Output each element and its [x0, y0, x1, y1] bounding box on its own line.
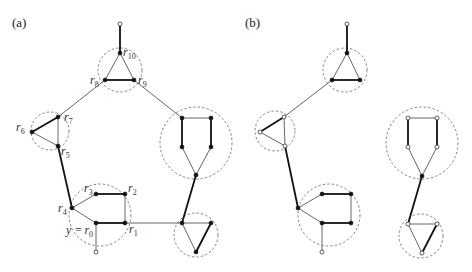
vertex-tail-bottom [94, 250, 98, 254]
vertex-r7 [56, 115, 60, 119]
vertex-b-bl-tl [320, 192, 324, 196]
label-r5: r5 [61, 144, 70, 160]
label-r8: r8 [90, 73, 99, 89]
vertex-sq-tr [209, 116, 213, 120]
panel-a-label: (a) [12, 15, 26, 30]
vertex-r0 [94, 221, 98, 225]
vertex-b-top-l [330, 78, 334, 82]
vertex-sq-bl [180, 145, 184, 149]
label-r10: r10 [123, 45, 136, 61]
vertex-sq-br [209, 145, 213, 149]
vertex-sq-bottom [194, 173, 198, 177]
vertex-tri-r [209, 221, 213, 225]
vertex-b-tail-top [345, 22, 349, 26]
vertex-tri-bottom [194, 250, 198, 254]
vertex-r4 [70, 206, 74, 210]
vertex-b-tail-bottom [320, 250, 324, 254]
label-r1: r1 [129, 222, 138, 238]
vertex-r10 [118, 51, 122, 55]
panel-b: (b) [245, 15, 458, 258]
vertex-r3 [94, 192, 98, 196]
vertex-b-left-bottom [283, 144, 287, 148]
label-r9: r9 [138, 73, 147, 89]
panel-a: (a) [12, 15, 232, 257]
label-y-eq-r0: y =r0 [65, 223, 93, 239]
vertex-b-hub [296, 206, 300, 210]
vertex-b-top [345, 51, 349, 55]
vertex-b-top-r [358, 78, 362, 82]
vertex-b-bl-br [349, 221, 353, 225]
vertex-r6 [30, 130, 34, 134]
vertex-labels-a: r10 r8 r9 r7 r6 r5 r4 r3 r2 y =r0 r1 [16, 45, 147, 239]
vertex-r5 [56, 144, 60, 148]
panel-b-label: (b) [245, 15, 260, 30]
label-r6: r6 [16, 120, 25, 136]
label-r7: r7 [64, 110, 73, 126]
vertex-b-sq-tl [406, 116, 410, 120]
label-r4: r4 [58, 201, 67, 217]
vertex-b-tri-bottom [420, 251, 424, 255]
vertex-b-bl-tr [349, 192, 353, 196]
vertex-r2 [123, 192, 127, 196]
label-r3: r3 [84, 181, 93, 197]
vertex-b-sq-bottom [420, 174, 424, 178]
edges-a [32, 24, 211, 252]
vertex-b-bl-bl [320, 221, 324, 225]
cluster-circle-top-b [323, 48, 367, 92]
vertex-b-sq-br [435, 145, 439, 149]
vertex-b-left-mid [258, 130, 262, 134]
vertex-sq-tl [180, 116, 184, 120]
vertex-tail-top [118, 22, 122, 26]
vertex-r8 [103, 78, 107, 82]
vertex-b-sq-tr [435, 116, 439, 120]
vertex-b-tri-r [435, 222, 439, 226]
vertex-b-sq-bl [406, 145, 410, 149]
vertex-tri-l [180, 221, 184, 225]
edges-b [260, 24, 437, 253]
vertex-b-left-top [282, 115, 286, 119]
vertex-b-tri-l [406, 222, 410, 226]
label-r2: r2 [128, 181, 137, 197]
vertex-r1 [123, 221, 127, 225]
vertex-r9 [132, 78, 136, 82]
diagram-canvas: (a) [0, 0, 472, 272]
